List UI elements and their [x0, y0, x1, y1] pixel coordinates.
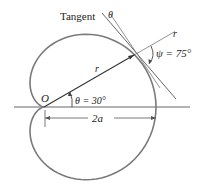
psi-label: ψ = 75° — [156, 47, 192, 59]
cardioid-diagram: Tangent θ r r ψ = 75° O θ = 30° 2a — [0, 0, 203, 191]
tangent-label: Tangent — [60, 10, 95, 22]
origin-label: O — [41, 92, 49, 104]
r-ray-label: r — [173, 28, 177, 39]
theta-angle-label: θ = 30° — [75, 95, 106, 106]
radius-arrowhead — [128, 55, 135, 60]
dimension-arrow-left — [45, 116, 50, 120]
r-segment-label: r — [95, 63, 99, 74]
theta-top-label: θ — [108, 9, 113, 20]
dimension-label: 2a — [92, 112, 104, 124]
